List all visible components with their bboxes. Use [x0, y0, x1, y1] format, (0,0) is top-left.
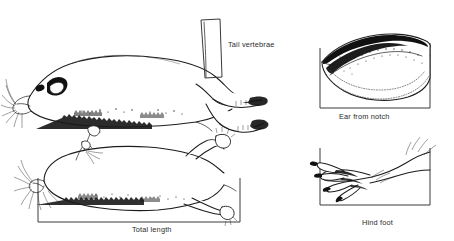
- caption-ear-from-notch: Ear from notch: [339, 113, 390, 120]
- figure-ear: [320, 34, 430, 108]
- caption-tail-vertebrae: Tail vertebrae: [228, 41, 274, 48]
- tail-vertebrae-bracket: [201, 19, 222, 78]
- caption-total-length: Total length: [132, 226, 172, 233]
- figure-lateral-mouse: [1, 19, 268, 132]
- measurement-plate: Tail vertebrae Ear from notch Total leng…: [0, 0, 454, 241]
- caption-hind-foot: Hind foot: [362, 219, 393, 226]
- figure-hind-foot: [310, 137, 436, 205]
- figure-dorsal-mouse: [14, 118, 240, 226]
